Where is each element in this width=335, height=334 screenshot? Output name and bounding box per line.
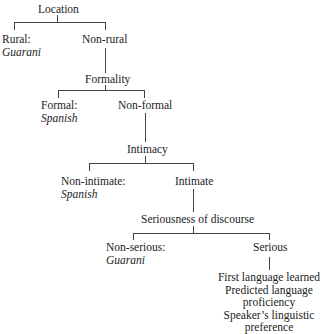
node-non-formal: Non-formal <box>118 99 172 112</box>
node-seriousness: Seriousness of discourse <box>141 213 254 226</box>
connector-rural-drop <box>14 22 15 30</box>
factor-predicted-proficiency: Predicted language proficiency <box>204 284 334 309</box>
connector-nonrural-drop <box>105 22 106 30</box>
connector-formal-drop <box>58 90 59 98</box>
outcome-formal: Spanish <box>41 112 77 125</box>
node-rural: Rural: <box>2 33 31 46</box>
connector-location-branch <box>14 22 106 23</box>
connector-intimate-seriousness <box>193 189 194 212</box>
connector-intimacy-stem <box>145 156 146 163</box>
node-formality: Formality <box>85 73 130 86</box>
factor-first-language: First language learned <box>204 271 334 284</box>
connector-nonintimate-drop <box>89 163 90 171</box>
node-formal: Formal: <box>41 99 77 112</box>
connector-seriousness-stem <box>193 226 194 233</box>
node-location: Location <box>38 3 79 16</box>
node-non-rural: Non-rural <box>82 33 127 46</box>
node-serious: Serious <box>253 241 288 254</box>
connector-intimate-drop <box>193 163 194 171</box>
outcome-non-intimate: Spanish <box>61 188 97 201</box>
connector-nonrural-formality <box>105 48 106 73</box>
factor-linguistic-preference: Speaker’s linguistic preference <box>204 309 334 334</box>
connector-location-stem <box>57 15 58 22</box>
connector-serious-drop <box>269 233 270 240</box>
node-non-serious: Non-serious: <box>106 241 165 254</box>
final-factors-list: First language learned Predicted languag… <box>204 271 334 334</box>
node-intimate: Intimate <box>175 175 213 188</box>
connector-serious-factors <box>269 257 270 270</box>
connector-nonformal-intimacy <box>145 113 146 142</box>
connector-nonformal-drop <box>144 90 145 98</box>
connector-formality-branch <box>58 90 145 91</box>
connector-nonserious-drop <box>133 233 134 240</box>
node-intimacy: Intimacy <box>127 143 168 156</box>
connector-intimacy-branch <box>89 163 194 164</box>
outcome-rural: Guarani <box>2 46 41 59</box>
node-non-intimate: Non-intimate: <box>61 175 126 188</box>
outcome-non-serious: Guarani <box>106 254 145 267</box>
connector-seriousness-branch <box>133 233 270 234</box>
